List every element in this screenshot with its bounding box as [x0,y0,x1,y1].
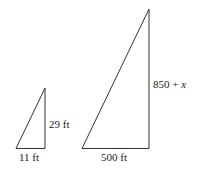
large-triangle-height-label: 850 + x [153,78,186,90]
height-prefix: 850 + [153,78,181,90]
small-triangle-base-label: 11 ft [19,151,39,163]
large-triangle [82,9,149,149]
small-triangle-height-label: 29 ft [49,118,69,130]
similar-triangles-diagram: 29 ft 11 ft 850 + x 500 ft [0,0,199,175]
small-triangle [16,88,45,149]
large-triangle-base-label: 500 ft [101,151,127,163]
height-variable: x [180,78,186,90]
